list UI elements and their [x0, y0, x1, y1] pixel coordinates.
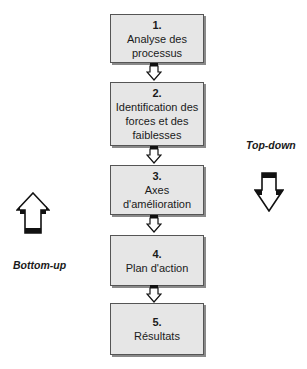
down-arrow-icon [146, 215, 162, 233]
step-3-label: Axes d'amélioration [114, 183, 200, 211]
hollow-down-arrow-icon [254, 172, 284, 212]
down-arrow-icon [146, 146, 162, 164]
step-3-number: 3. [152, 169, 161, 183]
step-2-label: Identification des forces et des faibles… [114, 100, 200, 142]
bottom-up-label: Bottom-up [13, 259, 66, 271]
step-1-box: 1. Analyse des processus [110, 14, 204, 63]
step-4-label: Plan d'action [126, 261, 189, 275]
step-1-number: 1. [152, 18, 161, 32]
step-5-number: 5. [152, 315, 161, 329]
top-down-label: Top-down [246, 139, 296, 151]
step-1-label: Analyse des processus [122, 32, 192, 60]
down-arrow-icon [146, 63, 162, 81]
step-4-box: 4. Plan d'action [110, 235, 204, 286]
hollow-up-arrow-icon [16, 192, 50, 234]
step-2-number: 2. [152, 86, 161, 100]
down-arrow-icon [146, 285, 162, 303]
step-4-number: 4. [152, 247, 161, 261]
step-3-box: 3. Axes d'amélioration [110, 165, 204, 215]
step-5-box: 5. Résultats [110, 303, 204, 355]
step-2-box: 2. Identification des forces et des faib… [110, 82, 204, 146]
step-5-label: Résultats [134, 329, 180, 343]
